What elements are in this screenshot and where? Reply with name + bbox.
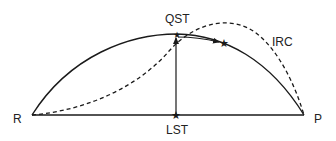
label-lst: LST (166, 124, 188, 136)
lst-star-icon: ★ (171, 109, 181, 122)
qst-star-icon: ★ (173, 30, 181, 40)
label-reactant: R (13, 113, 22, 125)
label-irc: IRC (272, 36, 293, 48)
label-qst: QST (165, 13, 190, 25)
label-product: P (314, 113, 322, 125)
qst-arc-path (32, 34, 304, 115)
ts-star-icon: ★ (219, 37, 229, 50)
